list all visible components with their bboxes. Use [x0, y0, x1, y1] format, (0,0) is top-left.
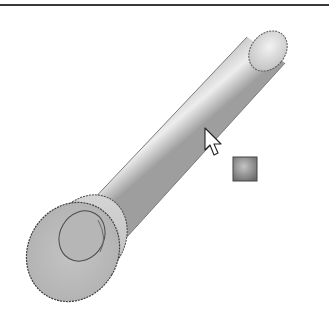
- model-graphics[interactable]: [0, 0, 329, 322]
- model-viewport[interactable]: [0, 0, 329, 322]
- face-filter-icon: [233, 157, 257, 181]
